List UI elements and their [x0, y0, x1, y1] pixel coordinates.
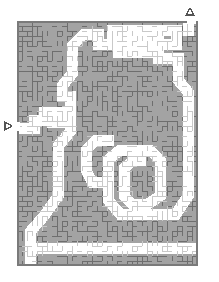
maze-canvas	[0, 0, 219, 282]
maze-figure	[0, 0, 219, 282]
